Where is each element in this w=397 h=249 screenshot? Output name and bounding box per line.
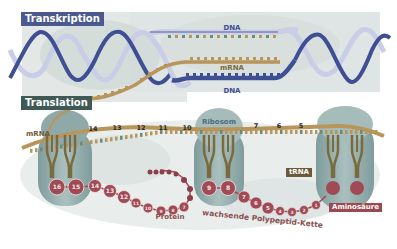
base-tick bbox=[263, 73, 266, 76]
bead-number: 9 bbox=[207, 184, 211, 191]
bead-number: 14 bbox=[91, 182, 99, 189]
base-tick bbox=[186, 73, 189, 76]
base-tick bbox=[172, 62, 175, 65]
ribosome-3 bbox=[316, 106, 374, 210]
codon-tooth bbox=[300, 130, 303, 134]
base-tick bbox=[273, 35, 276, 38]
codon-tooth bbox=[255, 130, 258, 134]
base-tick bbox=[228, 73, 231, 76]
codon-tooth bbox=[95, 139, 98, 143]
base-tick bbox=[203, 35, 206, 38]
tail-bead bbox=[187, 195, 193, 201]
base-tick bbox=[197, 57, 200, 60]
tail-bead bbox=[174, 172, 179, 177]
codon-tooth bbox=[235, 130, 238, 134]
base-tick bbox=[270, 73, 273, 76]
base-tick bbox=[231, 35, 234, 38]
codon-tooth bbox=[375, 130, 378, 134]
base-tick bbox=[253, 57, 256, 60]
amino-acid-tag-text: Aminosäure bbox=[332, 203, 379, 211]
codon-tooth bbox=[355, 130, 358, 134]
codon-tooth bbox=[335, 130, 338, 134]
tail-bead bbox=[181, 177, 187, 183]
base-tick bbox=[246, 57, 249, 60]
amino-acid-tag: Aminosäure bbox=[329, 203, 382, 212]
base-tick bbox=[239, 57, 242, 60]
codon-tooth bbox=[225, 130, 228, 134]
codon-tooth bbox=[80, 142, 83, 146]
base-tick bbox=[277, 73, 280, 76]
codon-tooth bbox=[170, 130, 173, 134]
codon-tooth bbox=[250, 130, 253, 134]
codon-tooth bbox=[30, 149, 33, 153]
codon-tooth bbox=[105, 138, 108, 142]
transcription-title-text: Transkription bbox=[25, 13, 100, 24]
codon-tooth bbox=[175, 130, 178, 134]
base-tick bbox=[111, 91, 114, 94]
base-tick bbox=[175, 35, 178, 38]
codon-number: 7 bbox=[254, 122, 259, 130]
base-tick bbox=[207, 73, 210, 76]
base-tick bbox=[266, 35, 269, 38]
bead-number: 3 bbox=[290, 210, 293, 215]
base-tick bbox=[252, 35, 255, 38]
codon-tooth bbox=[370, 130, 373, 134]
base-tick bbox=[182, 35, 185, 38]
tail-bead bbox=[154, 170, 159, 175]
base-tick bbox=[267, 57, 270, 60]
base-tick bbox=[259, 35, 262, 38]
codon-number: 5 bbox=[299, 122, 304, 130]
codon-tooth bbox=[90, 140, 93, 144]
base-tick bbox=[238, 35, 241, 38]
bead-number: 10 bbox=[145, 206, 151, 211]
codon-tooth bbox=[145, 132, 148, 136]
base-tick bbox=[180, 61, 183, 64]
codon-tooth bbox=[195, 130, 198, 134]
codon-tooth bbox=[130, 134, 133, 138]
codon-tooth bbox=[310, 130, 313, 134]
ribosome-label: Ribosom bbox=[202, 118, 236, 126]
bead-number: 13 bbox=[106, 187, 114, 194]
base-tick bbox=[274, 57, 277, 60]
codon-tooth bbox=[245, 130, 248, 134]
codon-tooth bbox=[100, 139, 103, 143]
bead-number: 4 bbox=[278, 209, 281, 214]
base-tick bbox=[232, 57, 235, 60]
codon-tooth bbox=[365, 130, 368, 134]
base-tick bbox=[218, 57, 221, 60]
bead-number: 11 bbox=[133, 201, 139, 206]
codon-tooth bbox=[140, 133, 143, 137]
base-tick bbox=[118, 89, 121, 92]
amino-acid-bead bbox=[326, 181, 340, 195]
codon-tooth bbox=[230, 130, 233, 134]
codon-tooth bbox=[205, 130, 208, 134]
bead-number: 7 bbox=[182, 205, 185, 210]
codon-tooth bbox=[110, 137, 113, 141]
codon-tooth bbox=[315, 130, 318, 134]
base-tick bbox=[193, 73, 196, 76]
tail-bead bbox=[167, 170, 172, 175]
base-tick bbox=[189, 35, 192, 38]
bead-number: 15 bbox=[72, 183, 80, 190]
base-tick bbox=[190, 57, 193, 60]
codon-tooth bbox=[260, 130, 263, 134]
codon-tooth bbox=[120, 136, 123, 140]
base-tick bbox=[200, 73, 203, 76]
codon-number: 11 bbox=[158, 124, 168, 132]
codon-tooth bbox=[295, 130, 298, 134]
tail-bead bbox=[160, 170, 165, 175]
ribosome-1 bbox=[38, 110, 92, 206]
codon-tooth bbox=[345, 130, 348, 134]
base-tick bbox=[104, 93, 107, 96]
codon-number: 12 bbox=[136, 124, 145, 132]
codon-tooth bbox=[325, 130, 328, 134]
codon-number: 6 bbox=[277, 122, 282, 130]
base-tick bbox=[249, 73, 252, 76]
base-tick bbox=[125, 86, 128, 89]
translation-title: Translation bbox=[21, 96, 92, 110]
bead-number: 16 bbox=[53, 183, 61, 190]
base-tick bbox=[156, 68, 159, 71]
codon-tooth bbox=[220, 130, 223, 134]
bead-number: 5 bbox=[266, 205, 270, 211]
codon-tooth bbox=[360, 130, 363, 134]
